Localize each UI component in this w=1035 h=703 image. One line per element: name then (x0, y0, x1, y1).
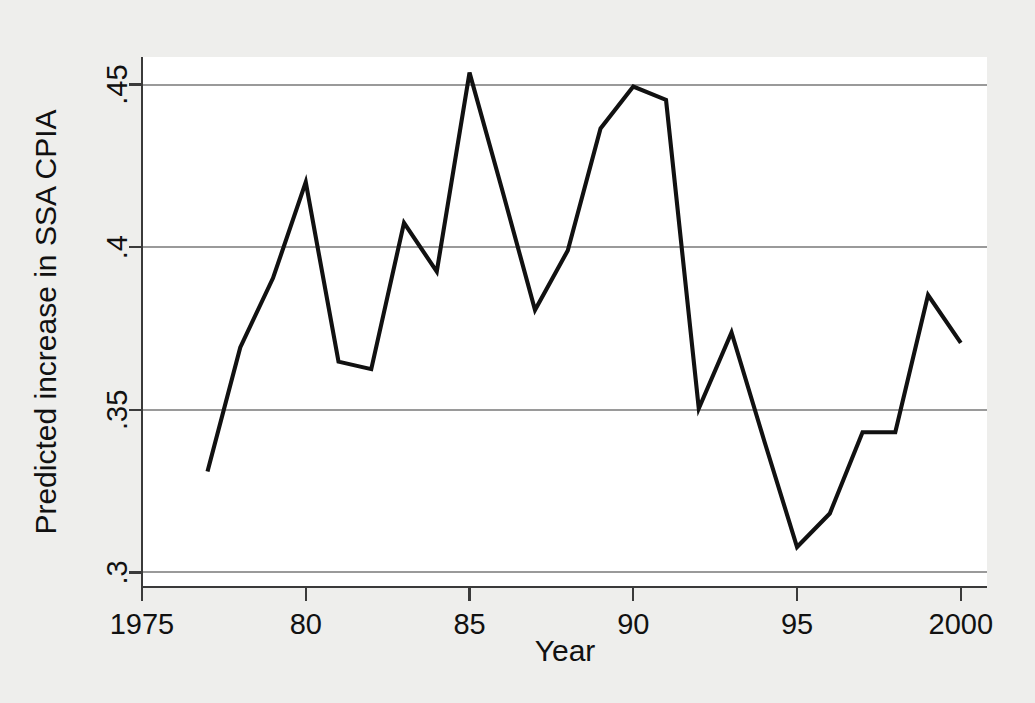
y-axis-tick-labels: .3.35.4.45 (101, 64, 133, 584)
x-tick-label: 95 (781, 608, 813, 640)
x-tick-label: 90 (617, 608, 649, 640)
x-tick-label: 80 (290, 608, 322, 640)
y-tick-label: .4 (101, 235, 133, 259)
x-axis-title: Year (535, 634, 596, 667)
chart-figure: .3.35.4.45 1975808590952000 Year Predict… (0, 0, 1035, 703)
y-tick-label: .35 (101, 390, 133, 430)
line-chart: .3.35.4.45 1975808590952000 Year Predict… (0, 0, 1035, 703)
y-tick-label: .3 (101, 560, 133, 584)
plot-area-background (142, 57, 987, 587)
x-tick-label: 85 (453, 608, 485, 640)
y-axis-title: Predicted increase in SSA CPIA (29, 109, 62, 534)
x-tick-label: 2000 (929, 608, 994, 640)
x-tick-label: 1975 (110, 608, 175, 640)
y-tick-label: .45 (101, 64, 133, 104)
